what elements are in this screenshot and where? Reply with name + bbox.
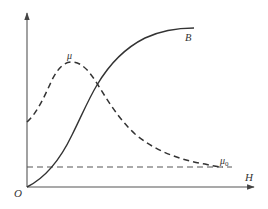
mu0-label: μ0 — [219, 155, 229, 168]
mu-curve — [27, 62, 223, 167]
mu-curve-label: μ — [66, 50, 72, 61]
b-curve-label: B — [185, 32, 192, 43]
b-curve — [27, 28, 194, 187]
mu0-label-sub: 0 — [225, 160, 229, 168]
magnetization-diagram: O H B μ μ0 — [0, 0, 268, 209]
origin-label: O — [14, 187, 22, 199]
x-axis-label: H — [244, 171, 254, 183]
